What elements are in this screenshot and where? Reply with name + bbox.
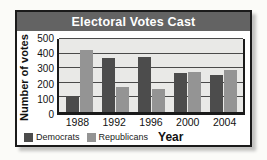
legend-swatch-democrats xyxy=(24,133,33,142)
bar-democrats-1996 xyxy=(138,57,151,112)
legend-label-republicans: Republicans xyxy=(99,132,149,142)
bars-layer xyxy=(59,39,243,112)
y-tick-label-100: 100 xyxy=(37,95,54,105)
chart-title: Electoral Votes Cast xyxy=(72,15,196,29)
bar-democrats-1988 xyxy=(66,96,79,112)
x-tick-label-1992: 1992 xyxy=(100,116,128,128)
chart-title-banner: Electoral Votes Cast xyxy=(17,12,250,31)
legend-item-democrats: Democrats xyxy=(24,132,80,142)
bar-group-1996 xyxy=(138,39,165,112)
bar-republicans-1988 xyxy=(80,50,93,112)
legend-label-democrats: Democrats xyxy=(36,132,80,142)
bar-democrats-2004 xyxy=(210,75,223,112)
x-tick-label-2000: 2000 xyxy=(174,116,202,128)
bar-group-1992 xyxy=(102,39,129,112)
y-tick-label-0: 0 xyxy=(48,110,54,120)
y-tick-label-200: 200 xyxy=(37,80,54,90)
bar-group-2004 xyxy=(210,39,237,112)
x-axis-title: Year xyxy=(158,130,183,144)
x-tick-label-2004: 2004 xyxy=(211,116,239,128)
bar-republicans-2004 xyxy=(224,70,237,112)
bar-republicans-2000 xyxy=(188,72,201,112)
plot-area xyxy=(57,39,245,115)
x-tick-label-1996: 1996 xyxy=(137,116,165,128)
y-tick-label-300: 300 xyxy=(37,64,54,74)
y-axis-ticks: 0100200300400500 xyxy=(31,39,57,115)
page-background: Electoral Votes Cast Number of votes 010… xyxy=(0,0,267,160)
bar-group-1988 xyxy=(66,39,93,112)
chart-card: Electoral Votes Cast Number of votes 010… xyxy=(15,10,252,147)
bar-republicans-1992 xyxy=(116,87,129,112)
bar-republicans-1996 xyxy=(152,89,165,112)
legend: DemocratsRepublicansYear xyxy=(17,128,250,144)
bar-democrats-2000 xyxy=(174,73,187,112)
x-axis-ticks: 19881992199620002004 xyxy=(57,115,245,128)
legend-swatch-republicans xyxy=(87,133,96,142)
legend-item-republicans: Republicans xyxy=(87,132,149,142)
y-axis-title: Number of votes xyxy=(18,34,31,122)
x-tick-label-1988: 1988 xyxy=(63,116,91,128)
y-tick-label-400: 400 xyxy=(37,49,54,59)
chart-body: Number of votes 0100200300400500 1988199… xyxy=(17,31,250,128)
plot-column: 19881992199620002004 xyxy=(57,39,245,128)
y-tick-label-500: 500 xyxy=(37,34,54,44)
bar-democrats-1992 xyxy=(102,58,115,112)
bar-group-2000 xyxy=(174,39,201,112)
